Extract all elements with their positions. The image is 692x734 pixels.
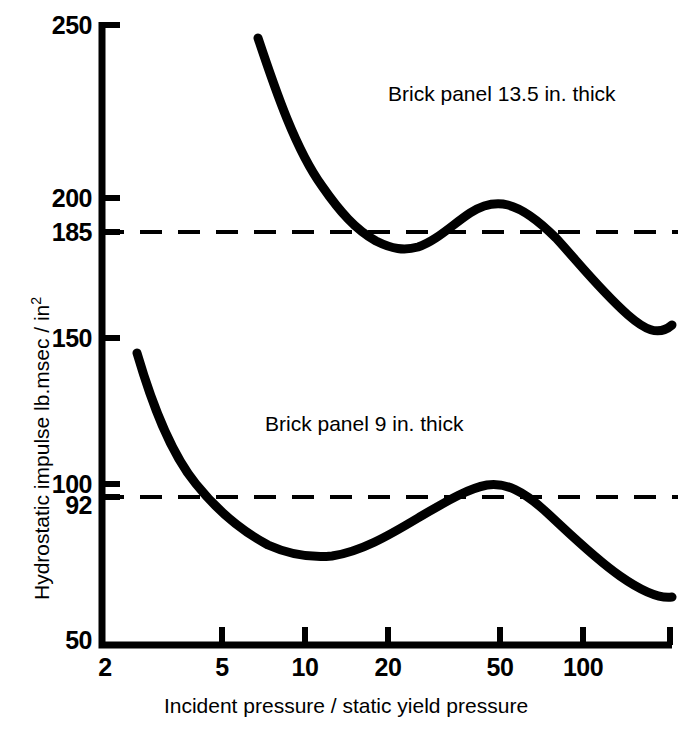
annotation-upper-curve: Brick panel 13.5 in. thick bbox=[388, 82, 616, 106]
y-tick-label-185: 185 bbox=[10, 220, 92, 245]
y-tick-label-200: 200 bbox=[10, 186, 92, 211]
chart-plot-area bbox=[0, 0, 692, 734]
y-axis-title: Hydrostatic impulse lb.msec / in2 bbox=[30, 297, 54, 600]
x-tick-label-20: 20 bbox=[375, 655, 402, 680]
chart-figure: 250 200 185 150 100 92 50 2 5 10 20 50 1… bbox=[0, 0, 692, 734]
x-tick-label-5: 5 bbox=[215, 655, 228, 680]
y-axis-title-text: Hydrostatic impulse lb.msec / in bbox=[30, 305, 53, 600]
x-axis-title: Incident pressure / static yield pressur… bbox=[0, 694, 692, 718]
y-tick-label-250: 250 bbox=[10, 13, 92, 38]
x-tick-label-100: 100 bbox=[563, 655, 603, 680]
x-axis-title-text: Incident pressure / static yield pressur… bbox=[164, 694, 528, 717]
x-tick-label-50: 50 bbox=[487, 655, 514, 680]
annotation-lower-curve: Brick panel 9 in. thick bbox=[265, 412, 463, 436]
y-tick-label-50: 50 bbox=[10, 628, 92, 653]
curve-brick-panel-9 bbox=[137, 353, 672, 597]
x-tick-label-10: 10 bbox=[292, 655, 319, 680]
y-axis-title-exponent: 2 bbox=[28, 297, 44, 305]
x-tick-label-2: 2 bbox=[98, 655, 111, 680]
